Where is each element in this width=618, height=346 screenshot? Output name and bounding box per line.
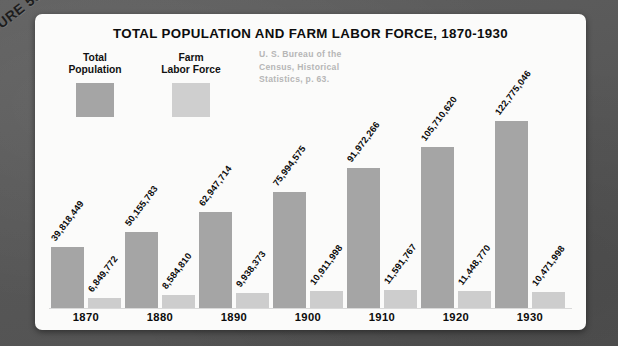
value-label-farm-labor-force-1910: 11,591,767	[382, 242, 419, 286]
bar-total-population-1890	[199, 212, 232, 308]
x-axis-line	[49, 308, 572, 309]
value-label-total-population-1910: 91,972,266	[345, 120, 382, 164]
value-label-farm-labor-force-1890: 9,938,373	[234, 249, 268, 289]
bar-total-population-1920	[421, 147, 454, 308]
bar-farm-labor-force-1870	[88, 298, 121, 308]
x-axis-label-1870: 1870	[49, 311, 123, 323]
value-label-total-population-1920: 105,710,620	[419, 94, 459, 143]
bar-farm-labor-force-1930	[532, 292, 565, 308]
x-axis-label-1920: 1920	[419, 311, 493, 323]
legend-farm-label-line1: Farm	[178, 52, 203, 63]
x-axis-label-1910: 1910	[345, 311, 419, 323]
bar-total-population-1910	[347, 168, 380, 308]
bar-farm-labor-force-1910	[384, 290, 417, 308]
x-axis-tick-labels: 1870188018901900191019201930	[49, 311, 572, 330]
bar-group-1890: 62,947,7149,938,373	[197, 110, 271, 308]
x-axis-label-1900: 1900	[271, 311, 345, 323]
x-axis-label-1890: 1890	[197, 311, 271, 323]
source-note: U. S. Bureau of the Census, Historical S…	[259, 48, 342, 86]
source-line-3: Statistics, p. 63.	[259, 73, 342, 86]
legend-total-label-line1: Total	[83, 52, 107, 63]
bar-farm-labor-force-1920	[458, 291, 491, 308]
value-label-farm-labor-force-1880: 8,584,810	[160, 251, 194, 291]
bar-total-population-1870	[51, 247, 84, 308]
value-label-total-population-1900: 75,994,575	[271, 144, 308, 188]
bar-total-population-1900	[273, 192, 306, 308]
legend-total-label-line2: Population	[68, 64, 121, 75]
legend-item-total-population: Total Population	[49, 52, 141, 117]
bar-group-1910: 91,972,26611,591,767	[345, 110, 419, 308]
legend-item-farm-labor-force: Farm Labor Force	[145, 52, 237, 117]
bar-group-1930: 122,775,04610,471,998	[493, 110, 567, 308]
bar-total-population-1880	[125, 232, 158, 308]
value-label-total-population-1880: 50,155,783	[123, 184, 160, 228]
source-line-2: Census, Historical	[259, 61, 342, 74]
plot-area: 39,818,4496,849,77250,155,7838,584,81062…	[49, 110, 572, 308]
value-label-farm-labor-force-1870: 6,849,772	[86, 254, 120, 294]
bar-group-1920: 105,710,62011,448,770	[419, 110, 493, 308]
legend-farm-label-line2: Labor Force	[161, 64, 221, 75]
source-line-1: U. S. Bureau of the	[259, 48, 342, 61]
bar-group-1880: 50,155,7838,584,810	[123, 110, 197, 308]
bar-total-population-1930	[495, 121, 528, 308]
value-label-farm-labor-force-1930: 10,471,998	[530, 244, 567, 288]
value-label-farm-labor-force-1920: 11,448,770	[456, 243, 493, 287]
value-label-farm-labor-force-1900: 10,911,998	[308, 243, 345, 287]
chart-title: TOTAL POPULATION AND FARM LABOR FORCE, 1…	[35, 26, 586, 41]
chart-card: TOTAL POPULATION AND FARM LABOR FORCE, 1…	[35, 14, 586, 330]
bar-farm-labor-force-1890	[236, 293, 269, 308]
value-label-total-population-1890: 62,947,714	[197, 164, 234, 208]
value-label-total-population-1930: 122,775,046	[493, 68, 533, 117]
bar-group-1900: 75,994,57510,911,998	[271, 110, 345, 308]
value-label-total-population-1870: 39,818,449	[49, 199, 86, 243]
bar-group-1870: 39,818,4496,849,772	[49, 110, 123, 308]
x-axis-label-1930: 1930	[493, 311, 567, 323]
x-axis-label-1880: 1880	[123, 311, 197, 323]
bar-farm-labor-force-1880	[162, 295, 195, 308]
bar-farm-labor-force-1900	[310, 291, 343, 308]
